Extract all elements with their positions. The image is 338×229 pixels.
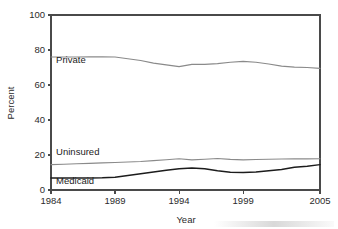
y-tick-label: 0 [40, 184, 45, 195]
y-tick-label: 40 [34, 114, 45, 125]
series-line-uninsured [51, 159, 320, 165]
x-tick-label: 1989 [104, 195, 125, 206]
series-label-medicaid: Medicaid [56, 175, 94, 186]
y-axis-title: Percent [5, 86, 16, 119]
x-tick-label: 1984 [40, 195, 61, 206]
line-chart: 02040608010019841989199419992005 Private… [0, 0, 338, 229]
x-tick-label: 1999 [233, 195, 254, 206]
x-axis-title: Year [176, 214, 195, 225]
series-line-private [51, 57, 320, 69]
data-series [51, 57, 320, 178]
series-labels: PrivateUninsuredMedicaid [56, 54, 99, 186]
axis-ticks [48, 15, 321, 194]
series-label-uninsured: Uninsured [56, 146, 99, 157]
y-tick-label: 100 [29, 9, 45, 20]
x-tick-label: 1994 [169, 195, 190, 206]
chart-figure: 02040608010019841989199419992005 Private… [0, 0, 338, 229]
x-tick-label: 2005 [309, 195, 330, 206]
y-tick-label: 20 [34, 149, 45, 160]
y-tick-label: 60 [34, 79, 45, 90]
series-label-private: Private [56, 54, 86, 65]
y-tick-label: 80 [34, 44, 45, 55]
